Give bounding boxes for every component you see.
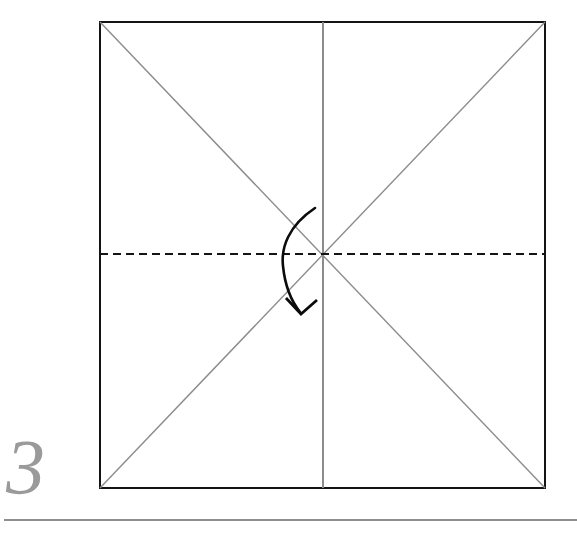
- origami-diagram: [0, 0, 577, 536]
- step-number-label: 3: [6, 424, 66, 510]
- diagram-stage: 3: [0, 0, 577, 536]
